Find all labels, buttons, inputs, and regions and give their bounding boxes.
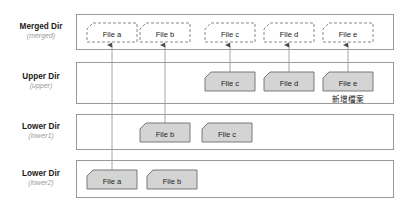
file-merged-e[interactable]: File e	[322, 22, 374, 43]
file-label: File a	[86, 22, 138, 43]
row-label-upper: Upper Dir (upper)	[8, 72, 74, 90]
file-label: File c	[204, 71, 256, 92]
row-label-lower2: Lower Dir (lower2)	[8, 169, 74, 187]
row-title-lower1: Lower Dir	[8, 122, 74, 131]
file-merged-a[interactable]: File a	[86, 22, 138, 43]
row-label-merged: Merged Dir (merged)	[8, 22, 74, 40]
file-label: File b	[146, 169, 198, 190]
file-lower2-a[interactable]: File a	[86, 169, 138, 190]
file-merged-d[interactable]: File d	[263, 22, 315, 43]
row-subtitle-upper: (upper)	[8, 82, 74, 90]
file-lower1-b[interactable]: File b	[139, 122, 191, 143]
row-title-merged: Merged Dir	[8, 22, 74, 31]
file-upper-e[interactable]: File e	[322, 71, 374, 92]
row-subtitle-merged: (merged)	[8, 32, 74, 40]
file-label: File d	[263, 22, 315, 43]
file-lower2-b[interactable]: File b	[146, 169, 198, 190]
row-subtitle-lower1: (lower1)	[8, 132, 74, 140]
file-label: File a	[86, 169, 138, 190]
file-label: File c	[204, 22, 256, 43]
file-lower1-c[interactable]: File c	[201, 122, 253, 143]
row-title-lower2: Lower Dir	[8, 169, 74, 178]
file-merged-c[interactable]: File c	[204, 22, 256, 43]
row-subtitle-lower2: (lower2)	[8, 179, 74, 187]
file-upper-c[interactable]: File c	[204, 71, 256, 92]
file-note-new-file: 新增檔案	[318, 93, 378, 104]
file-label: File b	[139, 22, 191, 43]
row-title-upper: Upper Dir	[8, 72, 74, 81]
file-label: File d	[263, 71, 315, 92]
file-label: File e	[322, 71, 374, 92]
row-label-lower1: Lower Dir (lower1)	[8, 122, 74, 140]
file-merged-b[interactable]: File b	[139, 22, 191, 43]
file-label: File b	[139, 122, 191, 143]
overlayfs-diagram: Merged Dir (merged) File a File b File c…	[0, 0, 402, 212]
file-label: File c	[201, 122, 253, 143]
file-upper-d[interactable]: File d	[263, 71, 315, 92]
file-label: File e	[322, 22, 374, 43]
